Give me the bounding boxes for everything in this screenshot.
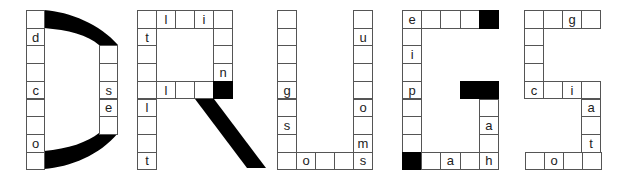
puzzle-cell[interactable]: i [194, 10, 214, 29]
puzzle-cell[interactable] [353, 116, 373, 135]
puzzle-cell[interactable] [137, 116, 157, 135]
puzzle-cell[interactable] [402, 99, 422, 118]
puzzle-cell[interactable] [460, 152, 480, 171]
puzzle-cell[interactable] [543, 81, 563, 100]
puzzle-cell[interactable] [277, 99, 297, 118]
puzzle-cell[interactable]: i [562, 81, 582, 100]
puzzle-cell[interactable] [26, 116, 45, 135]
puzzle-cell[interactable] [194, 81, 214, 100]
puzzle-cell[interactable]: t [137, 28, 157, 47]
puzzle-cell[interactable] [421, 152, 441, 171]
puzzle-cell[interactable] [26, 10, 45, 29]
puzzle-cell[interactable] [479, 99, 499, 118]
puzzle-cell[interactable]: s [353, 152, 373, 171]
cell-letter: s [105, 83, 112, 98]
puzzle-cell[interactable] [581, 116, 601, 135]
puzzle-cell[interactable] [99, 63, 118, 82]
puzzle-cell[interactable] [563, 152, 583, 171]
puzzle-cell[interactable] [524, 10, 544, 29]
puzzle-cell[interactable] [175, 10, 195, 29]
cell-letter: s [284, 118, 291, 133]
puzzle-cell[interactable] [26, 99, 45, 118]
puzzle-cell[interactable]: m [353, 134, 373, 153]
puzzle-cell[interactable] [525, 152, 545, 171]
puzzle-cell[interactable]: n [213, 63, 233, 82]
puzzle-cell[interactable]: l [156, 10, 176, 29]
puzzle-cell[interactable]: h [479, 152, 499, 171]
puzzle-cell[interactable] [353, 63, 373, 82]
puzzle-cell[interactable] [334, 152, 354, 171]
cell-letter: c [32, 83, 39, 98]
puzzle-cell[interactable] [277, 45, 297, 64]
puzzle-cell[interactable]: s [99, 81, 118, 100]
puzzle-cell[interactable]: p [402, 81, 422, 100]
puzzle-cell[interactable] [277, 134, 297, 153]
puzzle-cell[interactable] [402, 116, 422, 135]
puzzle-cell[interactable] [137, 134, 157, 153]
puzzle-cell[interactable]: e [99, 99, 118, 118]
puzzle-cell[interactable] [582, 152, 602, 171]
puzzle-cell[interactable] [99, 45, 118, 64]
puzzle-cell[interactable] [440, 10, 460, 29]
puzzle-cell[interactable]: t [137, 152, 157, 171]
puzzle-cell[interactable] [277, 63, 297, 82]
puzzle-cell[interactable]: i [402, 45, 422, 64]
puzzle-cell[interactable]: o [353, 99, 373, 118]
puzzle-cell[interactable]: d [26, 28, 45, 47]
puzzle-cell[interactable] [353, 45, 373, 64]
puzzle-cell[interactable]: o [26, 134, 45, 153]
puzzle-cell[interactable]: u [353, 28, 373, 47]
puzzle-cell[interactable]: s [277, 116, 297, 135]
puzzle-cell[interactable] [26, 63, 45, 82]
puzzle-cell[interactable] [479, 134, 499, 153]
cell-letter: t [145, 153, 149, 168]
puzzle-cell[interactable] [402, 134, 422, 153]
cell-letter: a [447, 153, 454, 168]
puzzle-cell[interactable]: c [524, 81, 544, 100]
puzzle-cell[interactable] [402, 63, 422, 82]
puzzle-cell[interactable] [353, 81, 373, 100]
cell-letter: a [587, 100, 594, 115]
puzzle-cell[interactable] [213, 28, 233, 47]
filled-cell [402, 152, 422, 171]
cell-letter: l [165, 83, 168, 98]
puzzle-cell[interactable] [524, 45, 544, 64]
puzzle-cell[interactable] [353, 10, 373, 29]
puzzle-cell[interactable] [277, 152, 297, 171]
cell-letter: i [203, 12, 206, 27]
puzzle-cell[interactable]: a [479, 116, 499, 135]
puzzle-cell[interactable] [137, 10, 157, 29]
puzzle-cell[interactable] [277, 10, 297, 29]
puzzle-cell[interactable] [581, 10, 601, 29]
puzzle-cell[interactable] [421, 10, 441, 29]
puzzle-cell[interactable] [213, 10, 233, 29]
puzzle-cell[interactable] [137, 81, 157, 100]
puzzle-cell[interactable]: c [26, 81, 45, 100]
puzzle-cell[interactable]: a [581, 99, 601, 118]
puzzle-cell[interactable] [524, 63, 544, 82]
puzzle-cell[interactable] [137, 45, 157, 64]
puzzle-cell[interactable] [524, 28, 544, 47]
puzzle-cell[interactable]: a [440, 152, 460, 171]
puzzle-cell[interactable]: o [544, 152, 564, 171]
puzzle-cell[interactable]: o [296, 152, 316, 171]
puzzle-cell[interactable] [581, 81, 601, 100]
puzzle-cell[interactable]: l [137, 99, 157, 118]
puzzle-cell[interactable]: g [562, 10, 582, 29]
puzzle-cell[interactable] [460, 10, 480, 29]
puzzle-cell[interactable] [99, 116, 118, 135]
puzzle-cell[interactable] [26, 152, 45, 171]
puzzle-cell[interactable] [402, 28, 422, 47]
puzzle-cell[interactable] [315, 152, 335, 171]
puzzle-cell[interactable] [175, 81, 195, 100]
puzzle-cell[interactable] [26, 45, 45, 64]
puzzle-cell[interactable]: l [156, 81, 176, 100]
filled-cell [479, 81, 499, 100]
puzzle-cell[interactable]: g [277, 81, 297, 100]
puzzle-cell[interactable]: t [581, 134, 601, 153]
puzzle-cell[interactable] [213, 45, 233, 64]
puzzle-cell[interactable] [543, 10, 563, 29]
puzzle-cell[interactable] [137, 63, 157, 82]
puzzle-cell[interactable] [277, 28, 297, 47]
puzzle-cell[interactable]: e [402, 10, 422, 29]
